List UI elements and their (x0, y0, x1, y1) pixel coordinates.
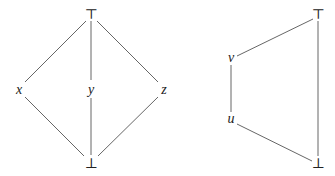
edge-top-v (237, 19, 313, 56)
lattice-m3-diagram: ⊤ x y z ⊥ (15, 7, 167, 171)
node-x-label: x (15, 82, 23, 97)
lattice-n5-diagram: ⊤ v u ⊥ (228, 7, 325, 171)
node-bot-label: ⊥ (311, 156, 324, 171)
edge-x-bot (25, 97, 84, 156)
node-v-label: v (228, 50, 235, 65)
node-u-label: u (228, 111, 235, 126)
node-y-label: y (86, 82, 95, 97)
node-bot-label: ⊥ (84, 156, 97, 171)
node-top-label: ⊤ (84, 7, 97, 22)
edge-z-bot (98, 97, 158, 156)
edge-top-z (97, 21, 158, 82)
edge-u-bot (237, 124, 312, 161)
edge-top-x (25, 21, 86, 82)
node-z-label: z (160, 82, 167, 97)
node-top-label: ⊤ (311, 7, 324, 22)
lattice-diagrams-canvas: ⊤ x y z ⊥ ⊤ v u ⊥ (0, 0, 335, 176)
